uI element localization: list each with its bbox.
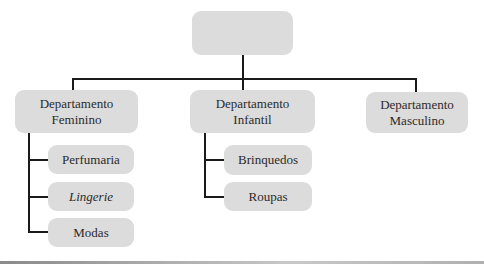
masculino-connector — [415, 78, 417, 92]
node-lingerie: Lingerie — [48, 182, 134, 211]
perfumaria-branch — [28, 159, 48, 161]
root-connector — [242, 55, 244, 79]
department-label-line2: Feminino — [40, 112, 114, 128]
department-label-line1: Departamento — [380, 97, 454, 113]
feminino-sub-connector — [28, 133, 30, 232]
node-roupas: Roupas — [224, 182, 312, 211]
modas-branch — [28, 231, 48, 233]
node-brinquedos: Brinquedos — [224, 145, 312, 175]
department-label-line1: Departamento — [216, 96, 290, 112]
department-infantil: Departamento Infantil — [190, 90, 315, 133]
department-masculino: Departamento Masculino — [366, 92, 468, 133]
node-perfumaria: Perfumaria — [48, 145, 134, 174]
root-node — [192, 11, 293, 55]
horizontal-connector — [72, 78, 417, 80]
roupas-branch — [204, 196, 224, 198]
node-modas: Modas — [48, 218, 134, 247]
lingerie-branch — [28, 196, 48, 198]
department-label-line2: Infantil — [216, 112, 290, 128]
infantil-sub-connector — [204, 133, 206, 197]
department-label-line2: Masculino — [380, 113, 454, 129]
department-feminino: Departamento Feminino — [15, 90, 138, 133]
department-label-line1: Departamento — [40, 96, 114, 112]
brinquedos-branch — [204, 159, 224, 161]
